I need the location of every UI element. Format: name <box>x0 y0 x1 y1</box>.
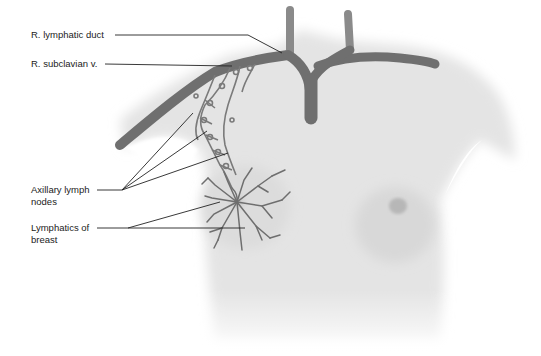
label-r-subclavian-v: R. subclavian v. <box>31 58 97 70</box>
left-nipple <box>389 198 407 214</box>
label-lymphatics-of-breast: Lymphatics of breast <box>31 222 89 246</box>
l-jugular-vein <box>348 14 350 50</box>
label-axillary-lymph-nodes: Axillary lymph nodes <box>31 184 90 208</box>
left-axilla-gap <box>125 137 198 180</box>
left-breast <box>355 187 435 263</box>
label-r-lymphatic-duct: R. lymphatic duct <box>31 29 104 41</box>
bottom-fade <box>180 290 480 356</box>
breast-lymphatics-diagram <box>0 0 541 356</box>
